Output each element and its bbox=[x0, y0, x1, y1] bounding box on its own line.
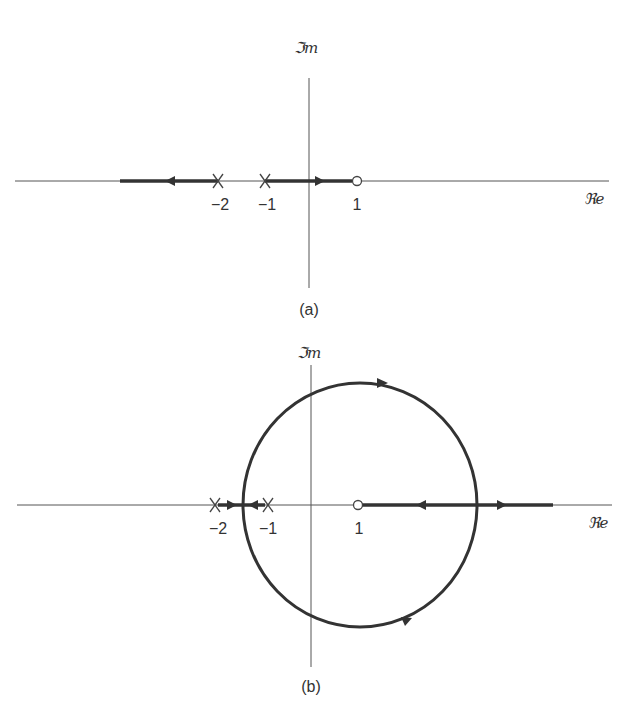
arrow-icon bbox=[401, 617, 412, 626]
arrow-icon bbox=[416, 500, 426, 510]
root-locus-figure: −2 −1 1 ℑm ℜe (a) −2 −1 1 ℑm ℜe bbox=[0, 0, 631, 712]
tick-label: −2 bbox=[211, 196, 229, 213]
tick-label: −2 bbox=[209, 520, 227, 537]
arrow-icon bbox=[315, 176, 325, 186]
panel-caption: (a) bbox=[299, 301, 319, 318]
real-axis-label: ℜe bbox=[588, 514, 609, 532]
real-axis-label: ℜe bbox=[584, 190, 605, 208]
tick-label: −1 bbox=[259, 520, 277, 537]
tick-label: −1 bbox=[258, 196, 276, 213]
panel-b: −2 −1 1 ℑm ℜe (b) bbox=[17, 344, 612, 695]
arrow-icon bbox=[165, 176, 175, 186]
arrow-icon bbox=[227, 500, 237, 510]
panel-a: −2 −1 1 ℑm ℜe (a) bbox=[15, 39, 609, 318]
panel-caption: (b) bbox=[301, 678, 321, 695]
tick-label: 1 bbox=[355, 520, 364, 537]
imag-axis-label: ℑm bbox=[297, 344, 321, 362]
zero-marker-icon bbox=[353, 177, 362, 186]
arrow-icon bbox=[497, 500, 507, 510]
arrow-icon bbox=[248, 500, 258, 510]
tick-label: 1 bbox=[353, 196, 362, 213]
zero-marker-icon bbox=[354, 501, 363, 510]
imag-axis-label: ℑm bbox=[294, 39, 318, 57]
